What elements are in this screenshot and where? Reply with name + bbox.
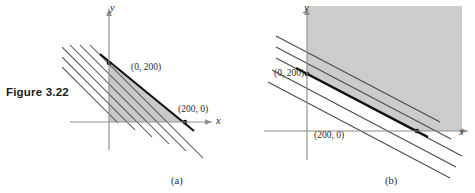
panel-b-plot [250, 0, 475, 180]
x-axis-label-b: x [459, 126, 464, 137]
point-label-0-200-b: (0, 200) [274, 68, 304, 78]
y-axis-label-a: y [110, 2, 115, 13]
panel-caption-b: (b) [385, 175, 397, 186]
panel-a-plot [62, 0, 242, 175]
point-label-200-0-a: (200, 0) [178, 104, 208, 114]
point-label-200-0-b: (200, 0) [314, 130, 344, 140]
figure-panel-a [62, 0, 242, 193]
feasible-region-b [307, 6, 462, 131]
point-label-0-200-a: (0, 200) [131, 62, 161, 72]
panel-caption-a: (a) [171, 175, 183, 186]
figure-number-label: Figure 3.22 [6, 86, 69, 98]
x-axis-label-a: x [216, 115, 221, 126]
y-axis-label-b: y [304, 2, 309, 13]
figure-panel-b [250, 0, 475, 193]
figure-container: Figure 3.22 [0, 0, 475, 193]
